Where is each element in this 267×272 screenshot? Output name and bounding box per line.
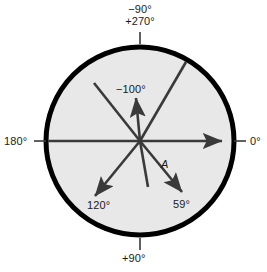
label-right-0: 0° — [250, 135, 261, 147]
angle-diagram-svg — [0, 0, 267, 272]
label-top-negative-90: −90° +270° — [103, 3, 177, 27]
label-top-line1: −90° — [103, 3, 177, 15]
label-top-line2: +270° — [103, 15, 177, 27]
label-ray-minus-100: −100° — [116, 83, 146, 95]
label-bottom-positive-90: +90° — [122, 252, 145, 264]
label-ray-120: 120° — [87, 199, 110, 211]
label-left-180: 180° — [4, 135, 27, 147]
label-ray-59: 59° — [173, 198, 190, 210]
label-vector-a: A — [161, 158, 168, 170]
figure-container: −90° +270° 180° 0° +90° −100° 120° 59° A — [0, 0, 267, 272]
